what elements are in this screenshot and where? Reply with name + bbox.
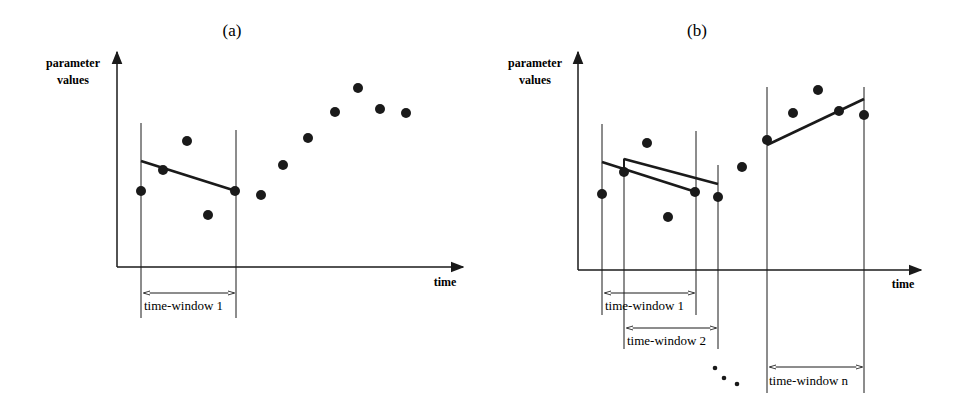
- ellipsis-dot: [722, 376, 727, 381]
- data-point: [303, 133, 313, 143]
- panel-b-data-points: [597, 85, 869, 222]
- panel-b-time-window-3: [767, 87, 864, 393]
- panel-a-x-axis-label: time: [434, 275, 457, 289]
- data-point: [690, 187, 700, 197]
- data-point: [401, 108, 411, 118]
- panel-b-ellipsis-dots: [713, 366, 740, 387]
- data-point: [330, 107, 340, 117]
- panel-b-time-window-1: [602, 124, 696, 315]
- panel-a: (a) parameter values time time-window 1: [46, 21, 463, 318]
- ellipsis-dot: [735, 382, 740, 387]
- regression-line: [624, 159, 718, 184]
- regression-line: [767, 99, 864, 145]
- data-point: [813, 85, 823, 95]
- panel-a-windows: [141, 123, 236, 318]
- panel-b: (b) parameter values time time-window 1 …: [508, 21, 921, 393]
- data-point: [619, 167, 629, 177]
- data-point: [713, 192, 723, 202]
- data-point: [762, 135, 772, 145]
- panel-a-data-points: [136, 83, 411, 220]
- panel-a-window-1-label: time-window 1: [144, 298, 223, 313]
- panel-a-time-window-1: [141, 123, 236, 318]
- data-point: [788, 108, 798, 118]
- panel-b-window-1-label: time-window 1: [605, 298, 684, 313]
- data-point: [278, 160, 288, 170]
- data-point: [182, 136, 192, 146]
- panel-a-title: (a): [223, 21, 242, 40]
- data-point: [642, 138, 652, 148]
- data-point: [256, 190, 266, 200]
- data-point: [158, 165, 168, 175]
- panel-b-time-window-2: [624, 158, 718, 349]
- panel-b-y-axis-label-line1: parameter: [508, 56, 563, 70]
- data-point: [663, 212, 673, 222]
- panel-b-title: (b): [687, 21, 707, 40]
- data-point: [859, 110, 869, 120]
- diagram-canvas: (a) parameter values time time-window 1 …: [0, 0, 962, 413]
- data-point: [230, 186, 240, 196]
- data-point: [203, 210, 213, 220]
- data-point: [353, 83, 363, 93]
- panel-b-window-n-label: time-window n: [769, 373, 849, 388]
- panel-b-x-axis-label: time: [892, 277, 915, 291]
- data-point: [375, 104, 385, 114]
- panel-b-y-axis-label-line2: values: [519, 73, 551, 87]
- ellipsis-dot: [713, 366, 718, 371]
- data-point: [834, 106, 844, 116]
- panel-a-y-axis-label-line1: parameter: [46, 56, 101, 70]
- regression-line: [141, 161, 236, 191]
- data-point: [597, 189, 607, 199]
- panel-a-y-axis-label-line2: values: [57, 73, 89, 87]
- panel-b-window-2-label: time-window 2: [627, 333, 706, 348]
- data-point: [136, 186, 146, 196]
- data-point: [737, 162, 747, 172]
